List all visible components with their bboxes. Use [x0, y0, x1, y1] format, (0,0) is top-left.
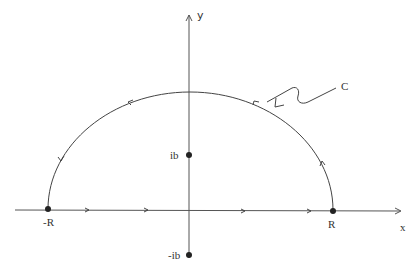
contour-diagram: y x -R R ib -ib C: [0, 0, 419, 276]
contour-pointer-arrow-icon: [267, 87, 336, 108]
point-neg-ib: [186, 252, 192, 258]
point-label-neg-ib: -ib: [168, 249, 181, 261]
point-label-R: R: [328, 218, 336, 230]
y-axis: [186, 15, 192, 258]
x-axis: [15, 208, 401, 214]
contour-label: C: [341, 80, 348, 92]
point-label-neg-R: -R: [43, 216, 55, 228]
point-R: [330, 208, 336, 214]
point-neg-R: [45, 206, 51, 212]
y-axis-label: y: [197, 9, 204, 22]
x-axis-label: x: [400, 221, 406, 233]
semicircle-arc: [48, 92, 333, 210]
point-label-ib: ib: [170, 149, 179, 161]
arc-direction-arrow-icon: [58, 156, 64, 161]
point-ib: [186, 152, 192, 158]
